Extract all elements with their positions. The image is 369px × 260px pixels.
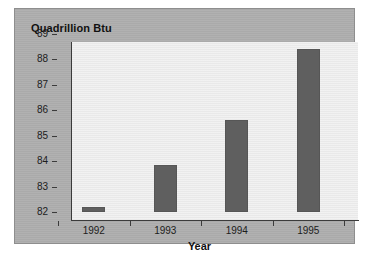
y-tick [52, 85, 57, 86]
y-tick [52, 110, 57, 111]
bar[interactable] [225, 120, 248, 212]
x-axis-title: Year [15, 240, 369, 252]
x-tick-label: 1992 [58, 225, 130, 236]
y-tick-label: 86 [22, 105, 48, 115]
y-tick [52, 161, 57, 162]
y-tick-label: 87 [22, 80, 48, 90]
y-tick-label: 85 [22, 131, 48, 141]
y-tick-label: 89 [22, 29, 48, 39]
x-tick-label: 1993 [130, 225, 202, 236]
x-tick [344, 221, 345, 226]
bar[interactable] [154, 165, 177, 212]
y-axis-line [71, 42, 72, 221]
x-tick-label: 1994 [201, 225, 273, 236]
y-tick-label: 82 [22, 207, 48, 217]
chart-panel: Quadrillion Btu 8283848586878889 1992199… [14, 8, 355, 244]
y-tick-label: 83 [22, 182, 48, 192]
x-tick-label: 1995 [273, 225, 345, 236]
y-tick [52, 212, 57, 213]
y-tick-label: 88 [22, 54, 48, 64]
bar[interactable] [82, 207, 105, 212]
y-tick [52, 34, 57, 35]
y-tick [52, 59, 57, 60]
y-tick-label: 84 [22, 156, 48, 166]
bar[interactable] [297, 49, 320, 212]
y-tick [52, 136, 57, 137]
x-axis-line [71, 220, 359, 221]
y-tick [52, 187, 57, 188]
chart-figure: Quadrillion Btu 8283848586878889 1992199… [0, 0, 369, 260]
